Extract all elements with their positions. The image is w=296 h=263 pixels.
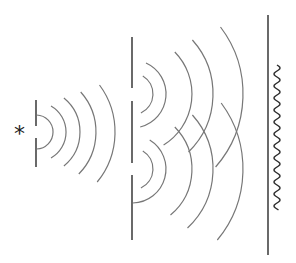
wavefront-arc <box>37 115 53 149</box>
wavefront-arc <box>216 27 243 167</box>
source-wavefronts <box>37 85 115 182</box>
wavefront-arc <box>97 85 115 182</box>
intensity-wave <box>274 65 280 210</box>
double-slit-diagram <box>0 0 296 263</box>
upper-slit-wavefronts <box>140 27 243 167</box>
wavefront-arc <box>133 140 166 203</box>
wavefront-arc <box>141 151 153 188</box>
wavefront-arc <box>79 92 96 174</box>
interference-pattern <box>274 65 280 210</box>
light-source-asterisk: * <box>14 123 25 145</box>
wavefront-arc <box>141 76 153 113</box>
wavefront-arc <box>171 127 192 215</box>
